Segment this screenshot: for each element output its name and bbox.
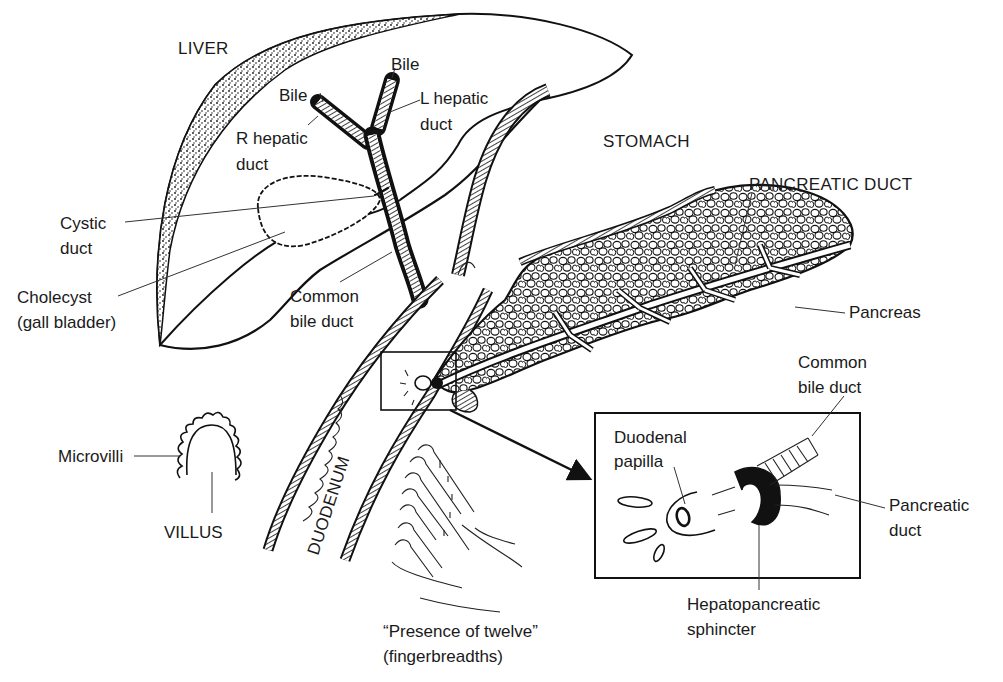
callout-arrow <box>450 410 588 478</box>
label-r-hepatic-duct-1: R hepatic <box>236 129 308 148</box>
label-inset-common-bile-duct-1: Common <box>798 353 867 372</box>
label-hepatopancreatic-sphincter-2: sphincter <box>687 620 756 639</box>
label-microvilli: Microvilli <box>58 447 123 466</box>
label-liver: LIVER <box>178 39 229 58</box>
label-common-bile-duct-2: bile duct <box>290 312 354 331</box>
label-l-hepatic-duct-1: L hepatic <box>420 89 489 108</box>
label-r-hepatic-duct-2: duct <box>236 155 268 174</box>
label-l-hepatic-duct-2: duct <box>420 115 452 134</box>
anatomy-diagram: LIVER Bile Bile L hepatic duct R hepatic… <box>0 0 1003 682</box>
fingers-illustration <box>392 445 522 612</box>
label-stomach: STOMACH <box>603 132 690 151</box>
label-pancreas: Pancreas <box>849 303 921 322</box>
villus-illustration <box>177 412 241 480</box>
label-bile-right-branch: Bile <box>279 86 307 105</box>
label-cholecyst-1: Cholecyst <box>17 288 92 307</box>
label-pancreatic-duct-main: PANCREATIC DUCT <box>749 175 913 194</box>
label-hepatopancreatic-sphincter-1: Hepatopancreatic <box>687 595 821 614</box>
label-presence-of-twelve-2: (fingerbreadths) <box>383 647 503 666</box>
pancreas <box>435 185 853 412</box>
label-duodenal-papilla-1: Duodenal <box>614 428 687 447</box>
label-inset-common-bile-duct-2: bile duct <box>798 378 862 397</box>
label-cystic-duct-2: duct <box>60 239 92 258</box>
label-bile-left-branch: Bile <box>391 55 419 74</box>
label-cholecyst-2: (gall bladder) <box>17 313 116 332</box>
label-villus: VILLUS <box>164 523 223 542</box>
label-presence-of-twelve-1: “Presence of twelve” <box>383 622 538 641</box>
label-inset-pancreatic-duct-1: Pancreatic <box>889 496 970 515</box>
label-common-bile-duct-1: Common <box>290 287 359 306</box>
label-cystic-duct-1: Cystic <box>60 214 107 233</box>
label-inset-pancreatic-duct-2: duct <box>889 521 921 540</box>
label-duodenal-papilla-2: papilla <box>614 452 664 471</box>
